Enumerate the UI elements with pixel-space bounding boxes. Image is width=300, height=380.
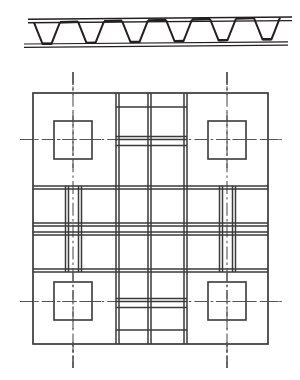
crown-3: [148, 20, 166, 21]
crown-4: [192, 19, 210, 20]
grid-plan-view: [20, 72, 282, 368]
crown-1: [60, 22, 78, 23]
technical-drawing-figure: [0, 0, 300, 380]
figure-canvas: [0, 0, 300, 380]
crown-5: [236, 18, 254, 19]
crown-2: [104, 21, 122, 22]
